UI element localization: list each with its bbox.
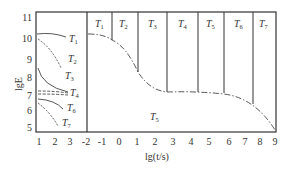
svg-text:10: 10 [22,33,32,44]
chart: 11 10 9 8 7 6 5 lgE 1 2 3 -2 -1 0 1 2 3 … [0,0,288,173]
svg-text:1: 1 [37,136,42,147]
svg-text:2: 2 [53,136,58,147]
curve-t4b [38,94,68,95]
label-t6: T6 [67,102,77,114]
x-axis-label: lg(t/s) [145,151,169,163]
svg-text:7: 7 [243,136,248,147]
svg-text:1: 1 [135,136,140,147]
isothermal-curves [37,33,68,126]
svg-text:T2: T2 [119,18,128,30]
svg-text:6: 6 [27,105,32,116]
svg-text:T4: T4 [178,18,188,30]
svg-text:T6: T6 [234,18,244,30]
y-axis-label: lgE [13,77,24,91]
x-tick-labels-left: 1 2 3 [37,136,73,147]
left-curve-labels: T1 T2 T3 T4 T6 T7 [62,33,80,129]
svg-text:0: 0 [117,136,122,147]
svg-text:3: 3 [68,136,73,147]
curve-t2 [38,39,61,68]
curve-t1 [37,33,66,37]
svg-text:5: 5 [27,122,32,133]
svg-text:9: 9 [273,136,278,147]
svg-text:8: 8 [258,136,263,147]
label-t2: T2 [68,53,77,65]
x-tick-labels-right: -2 -1 0 1 2 3 4 5 6 7 8 9 [82,136,278,147]
y-tick-labels: 11 10 9 8 7 6 5 [22,12,32,133]
plot-frame [36,12,276,132]
segment-labels: T1 T2 T3 T4 T5 T6 T7 [95,18,269,30]
svg-text:4: 4 [189,136,194,147]
svg-text:-1: -1 [98,136,106,147]
label-t4: T4 [70,87,80,99]
label-t1: T1 [69,33,78,45]
curve-t4a [38,91,68,93]
svg-text:8: 8 [27,72,32,83]
svg-text:6: 6 [227,136,232,147]
svg-text:5: 5 [207,136,212,147]
svg-text:9: 9 [27,54,32,65]
curve-t6 [38,99,63,109]
label-t7: T7 [62,117,72,129]
curve-t7 [38,103,58,126]
svg-text:11: 11 [22,12,32,23]
svg-text:T5: T5 [206,18,215,30]
curve-t3 [38,68,68,92]
svg-text:7: 7 [27,90,32,101]
svg-text:T7: T7 [259,18,269,30]
svg-text:T1: T1 [95,18,104,30]
svg-text:-2: -2 [82,136,90,147]
svg-text:3: 3 [171,136,176,147]
svg-text:2: 2 [153,136,158,147]
reference-temperature-label: T5 [150,111,159,123]
master-curve [88,34,275,130]
label-t3: T3 [65,70,74,82]
svg-text:T3: T3 [148,18,157,30]
